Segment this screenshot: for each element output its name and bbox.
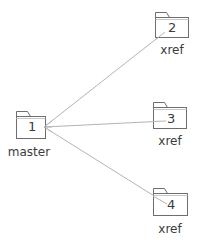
- edge-1-3: [44, 121, 166, 127]
- node-number: 2: [168, 21, 176, 35]
- node-label-xref: xref: [140, 134, 200, 148]
- node-number: 1: [28, 120, 36, 134]
- node-label-xref: xref: [142, 43, 202, 57]
- diagram-canvas: 1 2 3 4 master xref xref xref: [0, 0, 203, 249]
- node-number: 3: [167, 112, 175, 126]
- node-label-xref: xref: [140, 222, 200, 236]
- node-label-master: master: [0, 145, 59, 159]
- node-number: 4: [167, 198, 175, 212]
